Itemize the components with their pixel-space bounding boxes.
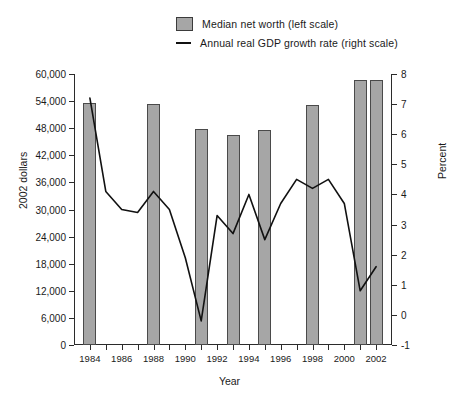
x-ticklabel: 1990 xyxy=(175,353,196,364)
chart-legend: Median net worth (left scale) Annual rea… xyxy=(176,14,446,52)
y-right-tick xyxy=(392,164,397,165)
y-right-tick xyxy=(392,285,397,286)
y-right-ticklabel: 0 xyxy=(401,309,407,320)
x-tick-1995 xyxy=(265,345,266,350)
x-tick-1988 xyxy=(154,345,155,350)
y-left-tick xyxy=(69,101,74,102)
x-ticklabel: 1986 xyxy=(111,353,132,364)
bar-swatch-icon xyxy=(176,17,193,31)
x-tick-1996 xyxy=(281,345,282,350)
chart-figure: Median net worth (left scale) Annual rea… xyxy=(0,0,459,410)
x-tick-1986 xyxy=(122,345,123,350)
y-left-ticklabel: 48,000 xyxy=(35,123,66,134)
x-ticklabel: 1992 xyxy=(207,353,228,364)
y-left-ticklabel: 60,000 xyxy=(35,69,66,80)
y-right-ticklabel: 8 xyxy=(401,69,407,80)
x-tick-1984 xyxy=(90,345,91,350)
y-right-ticklabel: 3 xyxy=(401,219,407,230)
y-right-tick xyxy=(392,225,397,226)
y-left-tick xyxy=(69,237,74,238)
y-left-ticklabel: 54,000 xyxy=(35,96,66,107)
x-tick-1985 xyxy=(106,345,107,350)
y-left-tick xyxy=(69,264,74,265)
y-right-ticklabel: 1 xyxy=(401,279,407,290)
x-ticklabel: 2002 xyxy=(366,353,387,364)
y-left-ticklabel: 12,000 xyxy=(35,285,66,296)
legend-item-gdp-growth: Annual real GDP growth rate (right scale… xyxy=(176,33,446,52)
x-ticklabel: 1998 xyxy=(302,353,323,364)
legend-item-median-net-worth: Median net worth (left scale) xyxy=(176,14,446,33)
y-right-ticklabel: 7 xyxy=(401,99,407,110)
x-tick-1991 xyxy=(201,345,202,350)
y-axis-left-title: 2002 dollars xyxy=(17,152,29,209)
y-right-ticklabel: 2 xyxy=(401,249,407,260)
x-tick-1994 xyxy=(249,345,250,350)
y-left-tick xyxy=(69,128,74,129)
y-right-tick xyxy=(392,315,397,316)
y-right-tick xyxy=(392,345,397,346)
y-right-tick xyxy=(392,134,397,135)
x-tick-2001 xyxy=(360,345,361,350)
x-tick-1999 xyxy=(328,345,329,350)
y-right-tick xyxy=(392,74,397,75)
x-ticklabel: 2000 xyxy=(334,353,355,364)
plot-area: 60,00054,00048,00042,00036,00030,00024,0… xyxy=(74,74,392,345)
y-left-ticklabel: 36,000 xyxy=(35,177,66,188)
x-axis-title: Year xyxy=(0,375,459,387)
y-left-tick xyxy=(69,182,74,183)
x-tick-1998 xyxy=(313,345,314,350)
x-tick-1990 xyxy=(185,345,186,350)
legend-label-gdp-growth: Annual real GDP growth rate (right scale… xyxy=(200,37,398,49)
y-right-tick xyxy=(392,104,397,105)
y-left-ticklabel: 30,000 xyxy=(35,204,66,215)
y-left-tick xyxy=(69,74,74,75)
y-left-ticklabel: 24,000 xyxy=(35,231,66,242)
y-left-tick xyxy=(69,210,74,211)
x-tick-1989 xyxy=(169,345,170,350)
y-right-ticklabel: 5 xyxy=(401,159,407,170)
gdp-growth-line xyxy=(74,74,392,345)
x-tick-1987 xyxy=(138,345,139,350)
y-right-ticklabel: 6 xyxy=(401,129,407,140)
y-left-ticklabel: 0 xyxy=(60,340,66,351)
y-left-ticklabel: 18,000 xyxy=(35,258,66,269)
x-tick-1997 xyxy=(297,345,298,350)
y-axis-right-title: Percent xyxy=(436,143,448,179)
y-left-tick xyxy=(69,345,74,346)
y-left-ticklabel: 42,000 xyxy=(35,150,66,161)
line-swatch-icon xyxy=(176,42,191,44)
x-tick-2002 xyxy=(376,345,377,350)
x-ticklabel: 1996 xyxy=(270,353,291,364)
x-ticklabel: 1988 xyxy=(143,353,164,364)
y-right-tick xyxy=(392,255,397,256)
legend-label-median-net-worth: Median net worth (left scale) xyxy=(202,18,338,30)
x-tick-1992 xyxy=(217,345,218,350)
y-left-tick xyxy=(69,318,74,319)
x-tick-1993 xyxy=(233,345,234,350)
plot-inner: 60,00054,00048,00042,00036,00030,00024,0… xyxy=(74,74,392,345)
y-left-tick xyxy=(69,291,74,292)
x-tick-2000 xyxy=(344,345,345,350)
y-right-ticklabel: 4 xyxy=(401,189,407,200)
y-left-tick xyxy=(69,155,74,156)
x-ticklabel: 1994 xyxy=(238,353,259,364)
y-left-ticklabel: 6,000 xyxy=(41,312,66,323)
x-ticklabel: 1984 xyxy=(79,353,100,364)
y-right-tick xyxy=(392,194,397,195)
y-right-ticklabel: -1 xyxy=(401,340,410,351)
